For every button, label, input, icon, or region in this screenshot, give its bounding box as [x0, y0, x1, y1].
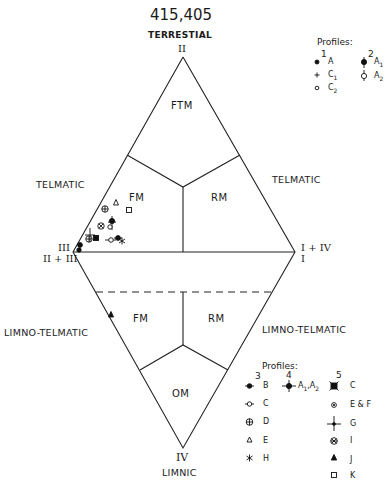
filled-dot-vertical-bar-icon [361, 57, 366, 68]
open-triangle-icon [247, 437, 252, 442]
thin-cross-icon [327, 416, 341, 431]
legend-label-3-b: B [263, 382, 269, 390]
filled-triangle-icon [331, 455, 336, 461]
filled-dot-icon [77, 248, 81, 252]
lower-partition [140, 345, 228, 370]
legend-label-2-a2: A2 [374, 72, 383, 82]
filled-dot-icon [78, 243, 83, 248]
legend-label-5-k: K [350, 472, 355, 480]
legend-top-symbols [315, 57, 367, 90]
plotted-points [77, 200, 132, 318]
legend-label-1-c1: C1 [328, 71, 337, 81]
circle-cross-icon [86, 236, 92, 242]
filled-triangle-icon [109, 312, 114, 318]
open-circle-vertical-bar-icon [108, 225, 112, 229]
legend-top-col1-header: 1 [321, 50, 327, 59]
circle-cross-icon [246, 419, 253, 426]
legend-label-4-a1a2: A1,A2 [298, 382, 319, 392]
circle-cross-icon [102, 206, 108, 212]
legend-label-3-e: E [263, 437, 268, 445]
legend-label-1-a: A [328, 58, 333, 66]
open-triangle-icon [114, 200, 119, 206]
legend-label-5-j: J [350, 456, 352, 464]
legend-bottom-col5-header: 5 [336, 371, 342, 380]
open-circle-vertical-bar-icon [361, 70, 366, 81]
legend-bottom-col3-header: 3 [255, 372, 261, 381]
legend-bottom-symbols [245, 380, 341, 478]
filled-square-x-icon [94, 236, 99, 241]
legend-label-2-a1: A1 [374, 58, 383, 68]
open-circle-horizontal-bar-icon [245, 402, 254, 406]
legend-label-5-ef: E & F [350, 401, 371, 409]
legend-label-1-c2: C2 [328, 84, 337, 94]
plus-icon [315, 73, 320, 78]
legend-top-heading: Profiles: [317, 38, 353, 47]
legend-top-col2-header: 2 [368, 50, 374, 59]
legend-bottom-col4-header: 4 [286, 371, 292, 380]
asterisk-icon [247, 455, 253, 462]
legend-label-5-g: G [350, 420, 356, 428]
legend-label-3-h: H [263, 455, 269, 463]
open-circle-icon [315, 86, 319, 90]
filled-dot-icon [315, 60, 319, 64]
dotted-circle-icon [332, 403, 337, 408]
filled-square-x-icon [330, 382, 339, 391]
circle-x-icon [331, 438, 338, 445]
filled-dot-cross-icon [282, 380, 296, 392]
legend-bottom-heading: Profiles: [262, 362, 298, 371]
open-square-icon [332, 473, 337, 478]
legend-label-5-c: C [350, 382, 356, 390]
legend-label-5-i: I [350, 437, 352, 445]
legend-label-3-c: C [263, 400, 269, 408]
open-square-icon [127, 208, 132, 213]
upper-partition [127, 155, 240, 187]
filled-dot-horizontal-bar-icon [245, 384, 254, 389]
circle-x-icon [98, 223, 104, 229]
legend-label-3-d: D [263, 418, 269, 426]
